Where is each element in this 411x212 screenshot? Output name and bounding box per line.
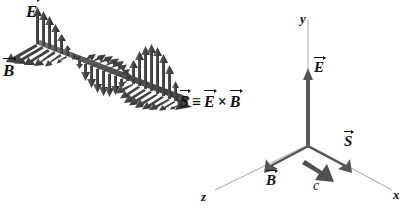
z-axis-label: z xyxy=(201,190,206,203)
wave-b-field-label: B xyxy=(3,62,14,79)
axes-b-vector-label: B xyxy=(266,173,276,188)
z-axis-line xyxy=(215,145,308,190)
speed-of-light-label: c xyxy=(313,179,319,193)
identity-symbol: ≡ xyxy=(189,93,204,110)
y-axis-label: y xyxy=(300,12,306,25)
wave-e-field-label: E xyxy=(26,3,37,20)
axes-e-vector-label: E xyxy=(314,60,324,75)
axes-s-vector-label: S xyxy=(344,134,352,149)
e-field-arrow-group xyxy=(33,7,185,104)
x-axis-label: x xyxy=(393,188,400,201)
em-wave-figure: E B S≡E×B y x z E S B c xyxy=(0,0,411,212)
cross-product-symbol: × xyxy=(215,93,230,110)
e-vector-arrow xyxy=(303,68,313,145)
poynting-equation: S≡E×B xyxy=(180,94,241,110)
